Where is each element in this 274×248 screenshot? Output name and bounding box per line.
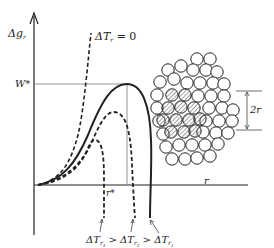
curve-label-delta-t-zero: ΔTr = 0 bbox=[95, 31, 136, 43]
x-axis-label: r bbox=[204, 176, 209, 186]
curve-delta-t-3 bbox=[38, 140, 104, 218]
y-axis bbox=[30, 13, 38, 235]
dimension-2r-label: 2r bbox=[250, 105, 261, 115]
curve-delta-t-2 bbox=[38, 112, 135, 218]
r-star-label: r* bbox=[106, 189, 115, 198]
pointer-arrows bbox=[100, 219, 159, 233]
w-star-label: W* bbox=[15, 79, 30, 89]
y-axis-label: Δgr bbox=[8, 28, 26, 40]
delta-t-ordering-label: ΔTr3 > ΔTr2 > ΔTr1 bbox=[86, 235, 174, 248]
curve-delta-t-zero bbox=[38, 33, 91, 185]
